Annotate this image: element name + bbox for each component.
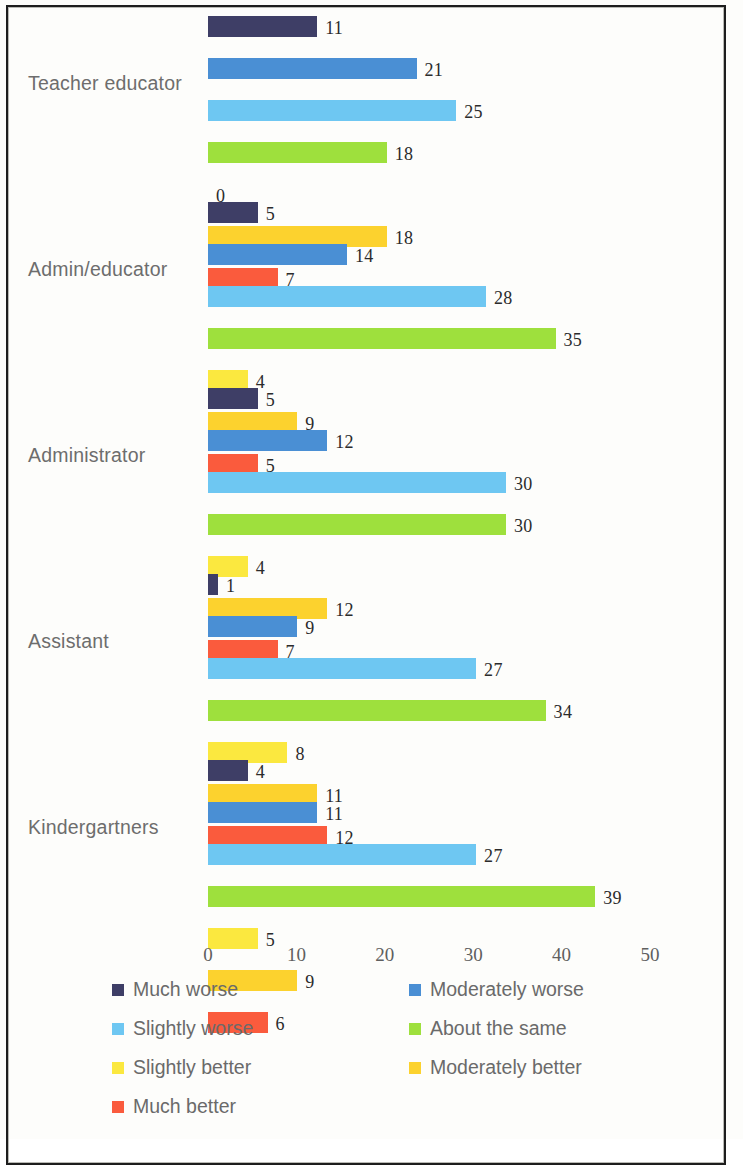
bar-value-label: 9 <box>305 618 314 639</box>
bar[interactable] <box>208 430 327 451</box>
bar-value-label: 11 <box>325 18 343 39</box>
legend-label: Slightly better <box>133 1058 251 1078</box>
bar-value-label: 35 <box>564 330 583 351</box>
x-axis-tick: 0 <box>203 944 213 966</box>
bar-value-label: 34 <box>554 702 573 723</box>
bar-group: Teacher educator112125180187 <box>0 4 743 189</box>
bar-value-label: 12 <box>335 432 354 453</box>
legend-swatch-icon <box>409 1023 421 1035</box>
legend-label: Slightly worse <box>133 1019 253 1039</box>
bar[interactable] <box>208 844 476 865</box>
bar-value-label: 5 <box>266 390 275 411</box>
bar[interactable] <box>208 574 218 595</box>
bar[interactable] <box>208 58 417 79</box>
plot-area: Teacher educator112125180187Admin/educat… <box>0 0 743 960</box>
bar[interactable] <box>208 886 595 907</box>
legend-label: About the same <box>430 1019 567 1039</box>
legend-swatch-icon <box>112 1101 124 1113</box>
bar[interactable] <box>208 388 258 409</box>
bar[interactable] <box>208 760 248 781</box>
bar[interactable] <box>208 286 486 307</box>
category-label: Kindergartners <box>28 816 200 839</box>
x-axis-tick: 50 <box>641 944 660 966</box>
bar-value-label: 27 <box>484 846 503 867</box>
bar-group: Administrator51230304127 <box>0 376 743 561</box>
bar-group: Admin/educator5142835495 <box>0 190 743 375</box>
legend-item[interactable]: Moderately better <box>409 1058 582 1078</box>
bar-value-label: 4 <box>256 762 265 783</box>
x-axis-tick: 10 <box>287 944 306 966</box>
bar-value-label: 14 <box>355 246 374 267</box>
bar[interactable] <box>208 514 506 535</box>
legend-item[interactable]: Much better <box>112 1097 236 1117</box>
legend-item[interactable]: Much worse <box>112 980 238 1000</box>
bar-value-label: 39 <box>603 888 622 909</box>
x-axis-tick: 40 <box>552 944 571 966</box>
x-axis-tick: 20 <box>375 944 394 966</box>
x-axis-tick: 30 <box>464 944 483 966</box>
legend-item[interactable]: Slightly better <box>112 1058 251 1078</box>
bar-group: Kindergartners4112739596 <box>0 748 743 933</box>
legend-item[interactable]: Slightly worse <box>112 1019 253 1039</box>
bar[interactable] <box>208 700 546 721</box>
bar[interactable] <box>208 244 347 265</box>
bar[interactable] <box>208 802 317 823</box>
bar[interactable] <box>208 142 387 163</box>
legend-label: Much better <box>133 1097 236 1117</box>
bar-value-label: 5 <box>266 204 275 225</box>
bar-value-label: 11 <box>325 804 343 825</box>
legend-swatch-icon <box>409 1062 421 1074</box>
legend-label: Much worse <box>133 980 238 1000</box>
chart-legend: Much worseModerately worseSlightly worse… <box>0 980 743 1130</box>
bar-value-label: 1 <box>226 576 235 597</box>
bar-value-label: 21 <box>425 60 444 81</box>
bar-value-label: 28 <box>494 288 513 309</box>
legend-swatch-icon <box>409 984 421 996</box>
legend-swatch-icon <box>112 1062 124 1074</box>
legend-label: Moderately worse <box>430 980 584 1000</box>
bar[interactable] <box>208 328 556 349</box>
bar[interactable] <box>208 616 297 637</box>
legend-swatch-icon <box>112 984 124 996</box>
bar-value-label: 30 <box>514 474 533 495</box>
legend-item[interactable]: Moderately worse <box>409 980 584 1000</box>
bar[interactable] <box>208 100 456 121</box>
bar-value-label: 18 <box>395 144 414 165</box>
legend-item[interactable]: About the same <box>409 1019 567 1039</box>
bar[interactable] <box>208 16 317 37</box>
legend-swatch-icon <box>112 1023 124 1035</box>
category-label: Admin/educator <box>28 258 200 281</box>
category-label: Assistant <box>28 630 200 653</box>
category-label: Administrator <box>28 444 200 467</box>
bar-group: Assistant19273481112 <box>0 562 743 747</box>
bar[interactable] <box>208 202 258 223</box>
bar-value-label: 30 <box>514 516 533 537</box>
category-label: Teacher educator <box>28 72 200 95</box>
bar-value-label: 27 <box>484 660 503 681</box>
bar-value-label: 25 <box>464 102 483 123</box>
bar[interactable] <box>208 472 506 493</box>
bar[interactable] <box>208 658 476 679</box>
x-axis: 01020304050 <box>0 944 743 978</box>
legend-label: Moderately better <box>430 1058 582 1078</box>
